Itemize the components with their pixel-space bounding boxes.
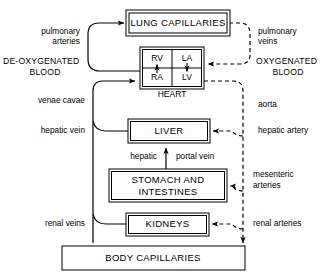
renal-arteries-path xyxy=(212,224,243,229)
chamber-label-la: LA xyxy=(182,53,193,63)
renal-veins-label: renal veins xyxy=(45,218,85,228)
stomach-intestines-label-line2: INTESTINES xyxy=(139,186,198,197)
hepatic-portal-label-right: portal vein xyxy=(176,151,215,161)
box-kidneys: KIDNEYS xyxy=(126,213,209,236)
box-lung-capillaries: LUNG CAPILLARIES xyxy=(126,10,230,36)
hepatic-vein-path xyxy=(93,121,128,131)
pulmonary-veins-label-line2: veins xyxy=(258,36,277,46)
aorta-path xyxy=(204,81,243,243)
mesenteric-arteries-label-line2: arteries xyxy=(253,180,281,190)
oxygenated-caption-line2: BLOOD xyxy=(272,67,303,77)
box-heart: RV LA RA LV HEART xyxy=(140,47,204,99)
mesenteric-arteries-label-line1: mesenteric xyxy=(253,169,294,179)
chamber-label-lv: LV xyxy=(182,72,192,82)
hepatic-vein-label: hepatic vein xyxy=(41,125,86,135)
aorta-label: aorta xyxy=(258,99,277,109)
kidneys-label: KIDNEYS xyxy=(146,218,190,229)
mesenteric-arteries-path xyxy=(230,186,243,191)
body-capillaries-label: BODY CAPILLARIES xyxy=(105,252,200,263)
box-body-capillaries: BODY CAPILLARIES xyxy=(62,246,245,270)
pulmonary-veins-label-line1: pulmonary xyxy=(258,26,298,36)
heart-label: HEART xyxy=(158,89,187,99)
liver-label: LIVER xyxy=(155,125,184,136)
chamber-label-ra: RA xyxy=(151,72,163,82)
box-liver: LIVER xyxy=(128,119,210,143)
renal-arteries-label: renal arteries xyxy=(253,218,301,228)
pulmonary-arteries-label-line2: arteries xyxy=(52,36,80,46)
lung-capillaries-label: LUNG CAPILLARIES xyxy=(130,17,225,28)
deoxygenated-caption-line2: BLOOD xyxy=(29,67,60,77)
hepatic-artery-label: hepatic artery xyxy=(258,125,309,135)
venae-cavae-label: venae cavae xyxy=(38,95,85,105)
hepatic-artery-path xyxy=(213,131,243,136)
deoxygenated-caption-line1: DE-OXYGENATED xyxy=(3,56,79,66)
chamber-label-rv: RV xyxy=(151,53,163,63)
hepatic-portal-label-left: hepatic xyxy=(130,151,157,161)
oxygenated-caption-line1: OXYGENATED xyxy=(256,56,317,66)
pulmonary-arteries-label-line1: pulmonary xyxy=(41,26,81,36)
box-stomach-intestines: STOMACH AND INTESTINES xyxy=(109,169,227,202)
renal-veins-path xyxy=(93,214,126,224)
circulation-diagram: LUNG CAPILLARIES RV LA RA LV HEART LIVER… xyxy=(0,0,320,276)
stomach-intestines-label-line1: STOMACH AND xyxy=(132,174,205,185)
